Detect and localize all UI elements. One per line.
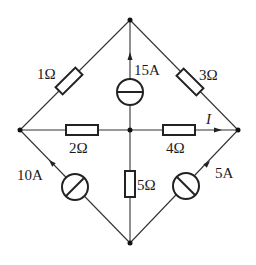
- resistor-5ohm: [125, 171, 135, 197]
- label-2ohm: 2Ω: [69, 140, 88, 156]
- arrow-toward-right-node-icon: [203, 159, 211, 167]
- label-10a: 10A: [17, 167, 43, 183]
- node-bottom: [128, 241, 133, 246]
- arrow-up-icon: [128, 52, 133, 60]
- node-right: [236, 128, 241, 133]
- label-4ohm: 4Ω: [166, 140, 185, 156]
- circuit-diagram: 1Ω 3Ω 2Ω 4Ω 5Ω 15A 10A 5A: [0, 0, 256, 265]
- node-center: [128, 128, 133, 133]
- resistor-1ohm: [56, 68, 83, 95]
- label-3ohm: 3Ω: [199, 67, 218, 83]
- node-top: [128, 18, 133, 23]
- resistor-4ohm: [163, 125, 195, 135]
- current-source-10a: [62, 174, 88, 200]
- current-source-15a: [117, 79, 143, 105]
- resistor-2ohm: [66, 125, 98, 135]
- label-1ohm: 1Ω: [37, 66, 56, 82]
- current-source-5a: [173, 173, 199, 199]
- label-15a: 15A: [134, 62, 160, 78]
- label-5ohm: 5Ω: [137, 177, 156, 193]
- arrow-right-icon: [214, 128, 222, 133]
- label-5a: 5A: [215, 165, 234, 181]
- node-left: [18, 128, 23, 133]
- label-current-i: I: [205, 111, 212, 127]
